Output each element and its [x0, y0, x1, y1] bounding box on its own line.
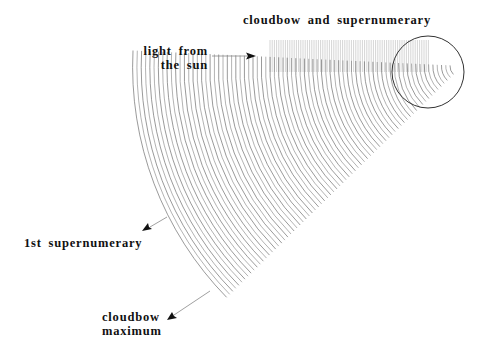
light-from-sun-label: light from the sun	[140, 44, 208, 72]
title-label: cloudbow and supernumerary	[243, 13, 431, 27]
light-label-line2: the sun	[140, 58, 208, 72]
supernumerary-arrow	[142, 217, 167, 231]
maximum-label-line1: cloudbow	[102, 310, 162, 324]
light-label-line1: light from	[140, 44, 208, 58]
cloudbow-maximum-label: cloudbow maximum	[102, 310, 162, 338]
cloudbow-diagram	[0, 0, 484, 343]
maximum-label-line2: maximum	[102, 324, 162, 338]
scattered-wavefronts	[133, 51, 454, 298]
maximum-arrow	[167, 291, 210, 320]
supernumerary-label: 1st supernumerary	[24, 236, 142, 250]
